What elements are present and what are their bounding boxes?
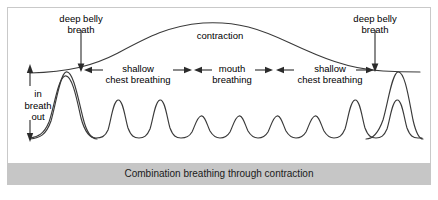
label-shallow-chest-breathing-left: shallow chest breathing: [92, 63, 184, 85]
breath-axis-label: in breath out: [16, 88, 60, 123]
axis-label-in: in: [16, 88, 60, 100]
label-deep-belly-breath-left: deep belly breath: [44, 13, 118, 35]
label-mouth-breathing: mouth breathing: [196, 63, 268, 85]
deep-belly-left-arrow: [78, 30, 85, 72]
breath-waveform: [30, 76, 422, 138]
diagram-panel: deep belly breath deep belly breath cont…: [7, 7, 431, 185]
caption-text: Combination breathing through contractio…: [7, 163, 431, 185]
axis-label-breath: breath: [16, 100, 60, 112]
label-shallow-chest-breathing-right: shallow chest breathing: [284, 63, 376, 85]
breathing-diagram-figure: deep belly breath deep belly breath cont…: [0, 0, 438, 200]
axis-label-out: out: [16, 111, 60, 123]
label-deep-belly-breath-right: deep belly breath: [338, 13, 412, 35]
label-contraction: contraction: [178, 30, 262, 41]
caption-bar: Combination breathing through contractio…: [7, 163, 431, 185]
